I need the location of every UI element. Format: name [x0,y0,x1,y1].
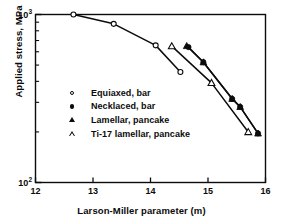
legend-label: Equiaxed, bar [81,88,151,98]
open-circle-icon [70,91,74,95]
x-tick-label: 15 [203,186,213,196]
data-point-marker [111,21,116,26]
x-tick-label: 16 [260,186,270,196]
legend-label: Ti-17 lamellar, pancake [81,129,190,139]
series-1 [71,12,183,74]
x-tick-label: 14 [145,186,155,196]
x-tick-label: 12 [30,186,40,196]
legend-marker-icon [63,104,81,109]
legend-item-3: Lamellar, pancake [63,113,190,127]
series-2 [186,44,261,136]
legend-label: Lamellar, pancake [81,115,169,125]
legend-marker-icon [63,91,81,95]
legend-marker-icon [63,131,81,136]
series-line [188,47,258,133]
series-3 [183,43,261,137]
data-point-marker [178,69,183,74]
data-point-marker [168,43,175,49]
series-line [73,15,180,72]
legend-item-1: Equiaxed, bar [63,86,190,100]
legend: Equiaxed, barNecklaced, barLamellar, pan… [63,86,190,140]
data-point-marker [71,12,76,17]
chart-figure: Applied stress, MPa Larson-Miller parame… [0,0,283,224]
legend-marker-icon [63,117,81,122]
filled-circle-icon [70,104,75,109]
open-triangle-icon [69,131,75,136]
legend-item-2: Necklaced, bar [63,100,190,114]
legend-item-4: Ti-17 lamellar, pancake [63,127,190,141]
legend-label: Necklaced, bar [81,101,155,111]
x-tick-label: 13 [88,186,98,196]
data-point-marker [153,43,158,48]
filled-triangle-icon [69,117,75,122]
series-line [187,46,258,133]
y-tick-label: 103 [8,10,32,20]
x-axis-title: Larson-Miller parameter (m) [0,205,283,216]
y-tick-label: 102 [8,178,32,188]
